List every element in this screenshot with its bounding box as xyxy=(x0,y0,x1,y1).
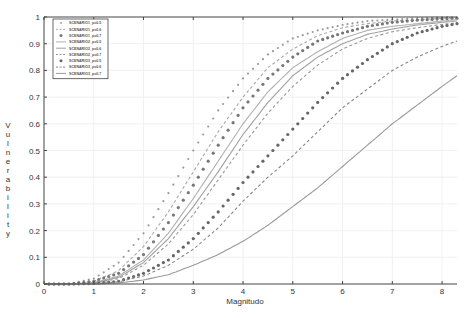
series-point xyxy=(177,175,179,177)
series-point xyxy=(167,221,170,224)
series-point xyxy=(187,241,190,244)
series-point xyxy=(371,24,374,27)
series-point xyxy=(287,41,289,43)
series-point xyxy=(361,62,364,65)
series-point xyxy=(113,265,115,267)
series-point xyxy=(142,232,144,234)
series-point xyxy=(381,49,384,52)
y-tick-label: 0.8 xyxy=(29,66,41,75)
x-tick-label: 6 xyxy=(340,287,345,296)
series-point xyxy=(117,272,120,275)
series-point xyxy=(391,21,394,24)
y-tick-label: 0.6 xyxy=(29,120,41,129)
series-point xyxy=(431,18,434,21)
series-point xyxy=(262,58,264,60)
series-point xyxy=(257,63,259,65)
series-point xyxy=(152,266,155,269)
series-point xyxy=(271,149,274,152)
series-point xyxy=(455,22,458,25)
series-point xyxy=(406,20,409,23)
series-point xyxy=(157,234,160,237)
legend-label: SCENARIO2_p=0.5 xyxy=(69,40,101,44)
series-point xyxy=(232,90,234,92)
legend-label: SCENARIO3_p=0.5 xyxy=(69,59,101,63)
y-tick-label: 0.2 xyxy=(29,227,41,236)
series-point xyxy=(371,20,373,22)
series-SCENARIO3_p=0.5 xyxy=(47,22,458,286)
series-point xyxy=(162,227,165,230)
series-point xyxy=(123,256,125,258)
series-point xyxy=(421,30,424,33)
x-tick-label: 1 xyxy=(92,287,97,296)
y-axis-label-letter: t xyxy=(7,220,10,229)
series-point xyxy=(147,247,150,250)
series-point xyxy=(376,52,379,55)
series-point xyxy=(251,170,254,173)
y-axis-label-letter: b xyxy=(6,184,11,193)
series-point xyxy=(291,56,294,59)
series-point xyxy=(281,64,284,67)
series-point xyxy=(112,273,115,276)
series-point xyxy=(381,19,383,21)
series-point xyxy=(142,272,145,275)
series-point xyxy=(301,117,304,120)
series-point xyxy=(217,144,220,147)
series-point xyxy=(401,18,403,20)
series-point xyxy=(321,96,324,99)
series-point xyxy=(426,18,429,21)
series-point xyxy=(317,29,319,31)
legend-label: SCENARIO2_p=0.6 xyxy=(69,47,101,51)
series-point xyxy=(331,86,334,89)
series-point xyxy=(376,23,379,26)
series-point xyxy=(167,258,170,261)
y-axis-label-letter: r xyxy=(7,166,10,175)
series-point xyxy=(445,24,448,27)
series-point xyxy=(227,199,230,202)
series-point xyxy=(272,50,274,52)
series-point xyxy=(336,33,339,36)
series-point xyxy=(222,204,225,207)
series-point xyxy=(246,100,249,103)
series-point xyxy=(98,274,100,276)
series-point xyxy=(361,26,364,29)
series-point xyxy=(237,114,240,117)
legend-swatch xyxy=(60,34,63,37)
series-point xyxy=(172,184,174,186)
series-point xyxy=(118,262,120,264)
series-point xyxy=(445,17,448,20)
series-point xyxy=(296,122,299,125)
y-tick-label: 0.7 xyxy=(29,93,41,102)
series-point xyxy=(137,257,140,260)
series-line xyxy=(44,76,457,284)
y-axis-label-letter: i xyxy=(7,193,9,202)
series-point xyxy=(342,24,344,26)
series-point xyxy=(207,221,210,224)
series-point xyxy=(356,66,359,69)
y-axis-label-letter: V xyxy=(5,121,11,130)
series-point xyxy=(197,176,200,179)
series-point xyxy=(366,20,368,22)
series-SCENARIO1_p=0.7 xyxy=(47,17,458,286)
series-point xyxy=(202,133,204,135)
series-point xyxy=(267,53,269,55)
series-point xyxy=(326,36,329,39)
legend-label: SCENARIO2_p=0.7 xyxy=(69,53,101,57)
series-point xyxy=(316,39,319,42)
series-point xyxy=(411,34,414,37)
x-axis-label: Magnitudo xyxy=(226,297,264,306)
series-point xyxy=(366,25,369,28)
series-point xyxy=(281,138,284,141)
series-point xyxy=(192,184,195,187)
series-point xyxy=(416,19,419,22)
y-tick-label: 0.4 xyxy=(29,173,41,182)
series-point xyxy=(222,136,225,139)
series-point xyxy=(321,38,324,41)
x-tick-label: 4 xyxy=(241,287,246,296)
series-point xyxy=(326,91,329,94)
series-point xyxy=(316,101,319,104)
y-axis-label-letter: a xyxy=(6,175,11,184)
series-point xyxy=(286,133,289,136)
series-point xyxy=(147,224,149,226)
series-point xyxy=(356,27,359,30)
y-axis-label-letter: u xyxy=(6,130,10,139)
